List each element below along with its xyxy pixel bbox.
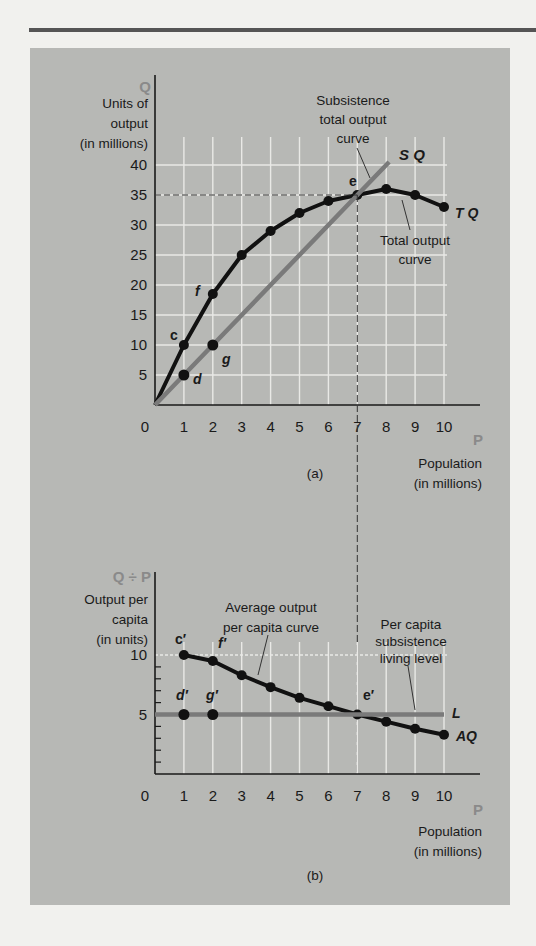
y-tick-label: 35	[130, 186, 147, 203]
series-aq	[184, 655, 444, 735]
y-axis-label: output	[110, 116, 148, 131]
x-axis-label: (in millions)	[414, 476, 482, 491]
data-point	[295, 693, 305, 703]
y-tick-label: 25	[130, 246, 147, 263]
y-tick-label: 10	[130, 646, 147, 663]
x-tick-label: 1	[180, 787, 188, 804]
point-label: e′	[363, 687, 375, 703]
data-point	[323, 701, 333, 711]
x-tick-label: 4	[266, 418, 274, 435]
annotation-sq: Subsistence	[316, 93, 390, 108]
point-label: g′	[205, 687, 219, 703]
x-tick-label: 2	[209, 787, 217, 804]
y-tick-label: 40	[130, 156, 147, 173]
data-point	[179, 650, 189, 660]
data-point	[266, 226, 276, 236]
data-point	[410, 724, 420, 734]
y-axis-label: Output per	[84, 592, 148, 607]
annotation-l: Per capita	[381, 617, 442, 632]
point-label-d: d	[193, 371, 202, 387]
annotation-l: living level	[380, 651, 442, 666]
x-tick-label: 8	[382, 787, 390, 804]
x-tick-label: 1	[180, 418, 188, 435]
x-tick-label: 6	[324, 418, 332, 435]
chart-a: 012345678910510152025303540QUnits ofoutp…	[80, 75, 483, 774]
series-label-sq: S Q	[399, 146, 425, 163]
data-point	[237, 670, 247, 680]
x-tick-label: 6	[324, 787, 332, 804]
point-label: c′	[175, 631, 187, 647]
series-label-aq: AQ	[455, 728, 477, 744]
point-label-e: e	[349, 173, 357, 189]
data-point	[178, 709, 189, 720]
data-point	[207, 340, 218, 351]
chart-b: 012345678910510Q ÷ POutput percapita(in …	[84, 568, 483, 883]
x-tick-label: 9	[411, 418, 419, 435]
data-point	[208, 656, 218, 666]
annotation-sq: total output	[320, 112, 387, 127]
x-tick-label: 3	[238, 418, 246, 435]
point-label: f′	[218, 635, 227, 651]
y-tick-label: 5	[139, 366, 147, 383]
point-label-c: c	[170, 327, 178, 343]
x-tick-label: 2	[209, 418, 217, 435]
x-tick-label: 9	[411, 787, 419, 804]
annotation-tq: curve	[398, 252, 431, 267]
x-tick-label: 7	[353, 787, 361, 804]
x-axis-label: Population	[418, 456, 482, 471]
y-axis-label: Units of	[102, 96, 148, 111]
data-point	[237, 250, 247, 260]
data-point	[439, 202, 449, 212]
x-tick-label: 5	[295, 418, 303, 435]
data-point	[381, 184, 391, 194]
data-point	[208, 289, 218, 299]
figure: 012345678910510152025303540QUnits ofoutp…	[0, 0, 536, 946]
y-axis-label: (in millions)	[80, 136, 148, 151]
y-tick-label: 10	[130, 336, 147, 353]
data-point	[207, 709, 218, 720]
data-point	[381, 717, 391, 727]
data-point	[439, 730, 449, 740]
x-axis-symbol: P	[473, 801, 483, 818]
x-axis-symbol: P	[473, 431, 483, 448]
x-tick-label: 8	[382, 418, 390, 435]
series-label-tq: T Q	[455, 205, 478, 221]
x-tick-label: 10	[436, 787, 453, 804]
annotation-sq: curve	[336, 131, 369, 146]
x-tick-label: 10	[436, 418, 453, 435]
y-axis-symbol: Q	[139, 78, 151, 95]
data-point	[266, 682, 276, 692]
data-point	[178, 370, 189, 381]
annotation-aq: Average output	[225, 600, 317, 615]
annotation-aq: per capita curve	[223, 620, 319, 635]
series-sq	[155, 162, 389, 405]
x-axis-label: Population	[418, 824, 482, 839]
point-label: d′	[176, 687, 189, 703]
x-tick-label: 0	[141, 418, 149, 435]
y-tick-label: 20	[130, 276, 147, 293]
y-axis-label: (in units)	[96, 632, 148, 647]
y-axis-label: capita	[112, 612, 149, 627]
x-tick-label: 0	[141, 787, 149, 804]
data-point	[179, 340, 189, 350]
y-tick-label: 30	[130, 216, 147, 233]
x-tick-label: 3	[238, 787, 246, 804]
data-point	[323, 196, 333, 206]
data-point	[410, 190, 420, 200]
annotation-l: subsistence	[375, 634, 446, 649]
gridlines	[155, 137, 447, 405]
x-tick-label: 5	[295, 787, 303, 804]
panel-caption: (a)	[307, 466, 324, 481]
data-point	[295, 208, 305, 218]
y-axis-symbol: Q ÷ P	[113, 568, 151, 585]
x-axis-label: (in millions)	[414, 844, 482, 859]
x-tick-label: 4	[266, 787, 274, 804]
panel-caption: (b)	[307, 868, 324, 883]
y-tick-label: 5	[139, 706, 147, 723]
annotation-tq: Total output	[380, 233, 450, 248]
y-tick-label: 15	[130, 306, 147, 323]
series-label-l: L	[452, 705, 461, 721]
point-label-g: g	[221, 351, 231, 367]
